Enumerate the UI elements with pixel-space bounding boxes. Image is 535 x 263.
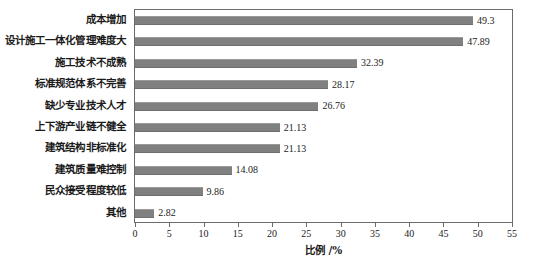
x-axis-tick-label: 0 xyxy=(133,228,138,239)
category-label: 缺少专业技术人才 xyxy=(0,100,126,111)
x-axis-title-text: 比例 /% xyxy=(305,244,342,256)
bar xyxy=(135,37,463,46)
bar-value-label: 2.82 xyxy=(158,208,176,218)
category-label: 成本增加 xyxy=(0,14,126,25)
x-axis-tick-label: 30 xyxy=(336,228,346,239)
bar xyxy=(135,80,328,89)
bar xyxy=(135,102,318,111)
bar-chart: 成本增加设计施工一体化管理难度大施工技术不成熟标准规范体系不完善缺少专业技术人才… xyxy=(0,0,535,263)
x-axis-tick xyxy=(169,223,170,227)
bar-value-label: 26.76 xyxy=(322,101,345,111)
bar xyxy=(135,144,280,153)
bar-value-label: 47.89 xyxy=(467,37,490,47)
category-label: 施工技术不成熟 xyxy=(0,57,126,68)
x-axis-tick xyxy=(204,223,205,227)
category-label: 其他 xyxy=(0,207,126,218)
x-axis-tick-label: 25 xyxy=(301,228,311,239)
bar-value-label: 49.3 xyxy=(477,16,495,26)
category-label: 设计施工一体化管理难度大 xyxy=(0,35,126,46)
x-axis-tick xyxy=(272,223,273,227)
bar xyxy=(135,187,203,196)
x-axis-tick-label: 5 xyxy=(167,228,172,239)
x-axis-tick-label: 10 xyxy=(199,228,209,239)
category-label: 民众接受程度较低 xyxy=(0,185,126,196)
x-axis-tick xyxy=(238,223,239,227)
x-axis-tick-label: 15 xyxy=(233,228,243,239)
category-axis: 成本增加设计施工一体化管理难度大施工技术不成熟标准规范体系不完善缺少专业技术人才… xyxy=(0,9,130,223)
x-axis-tick-label: 20 xyxy=(267,228,277,239)
x-axis-tick xyxy=(341,223,342,227)
x-axis-title: 比例 /% xyxy=(0,242,535,257)
x-axis-tick-label: 50 xyxy=(473,228,483,239)
bars-container: 49.347.8932.3928.1726.7621.1321.1314.089… xyxy=(135,10,512,222)
x-axis-tick-label: 35 xyxy=(370,228,380,239)
category-label: 建筑质量难控制 xyxy=(0,164,126,175)
x-axis-tick xyxy=(375,223,376,227)
bar xyxy=(135,166,232,175)
x-axis-tick xyxy=(306,223,307,227)
x-axis: 0510152025303540455055 xyxy=(134,223,513,241)
x-axis-tick-label: 40 xyxy=(404,228,414,239)
x-axis-tick xyxy=(512,223,513,227)
category-label: 标准规范体系不完善 xyxy=(0,78,126,89)
x-axis-tick xyxy=(409,223,410,227)
x-axis-tick xyxy=(135,223,136,227)
bar-value-label: 32.39 xyxy=(361,58,384,68)
x-axis-tick-label: 55 xyxy=(507,228,517,239)
category-label: 上下游产业链不健全 xyxy=(0,121,126,132)
x-axis-tick xyxy=(443,223,444,227)
bar xyxy=(135,59,357,68)
bar-value-label: 9.86 xyxy=(207,187,225,197)
bar-value-label: 28.17 xyxy=(332,80,355,90)
bar xyxy=(135,209,154,218)
x-axis-tick xyxy=(478,223,479,227)
bar xyxy=(135,16,473,25)
bar xyxy=(135,123,280,132)
category-label: 建筑结构非标准化 xyxy=(0,142,126,153)
bar-value-label: 21.13 xyxy=(284,144,307,154)
plot-area: 49.347.8932.3928.1726.7621.1321.1314.089… xyxy=(134,9,513,223)
bar-value-label: 14.08 xyxy=(236,165,259,175)
x-axis-tick-label: 45 xyxy=(438,228,448,239)
bar-value-label: 21.13 xyxy=(284,123,307,133)
